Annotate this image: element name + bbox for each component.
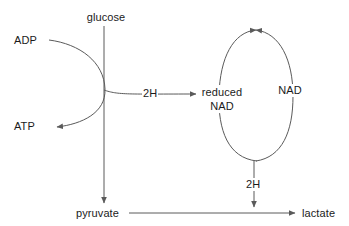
node-glucose: glucose — [78, 11, 134, 24]
edge-adp-to-atp — [49, 40, 105, 127]
node-adp: ADP — [14, 34, 37, 47]
node-atp: ATP — [14, 120, 35, 133]
node-nad: NAD — [269, 84, 311, 97]
node-pyruvate: pyruvate — [76, 207, 119, 220]
node-reduced-nad-line1: reduced — [196, 85, 248, 99]
node-reduced-nad-line2: NAD — [196, 99, 248, 113]
node-two-h-upper: 2H — [142, 87, 158, 100]
node-two-h-lower: 2H — [245, 178, 261, 191]
node-lactate: lactate — [302, 207, 335, 220]
pathway-diagram: glucose ADP ATP 2H reduced NAD NAD 2H py… — [0, 0, 349, 226]
pathway-svg — [0, 0, 349, 226]
